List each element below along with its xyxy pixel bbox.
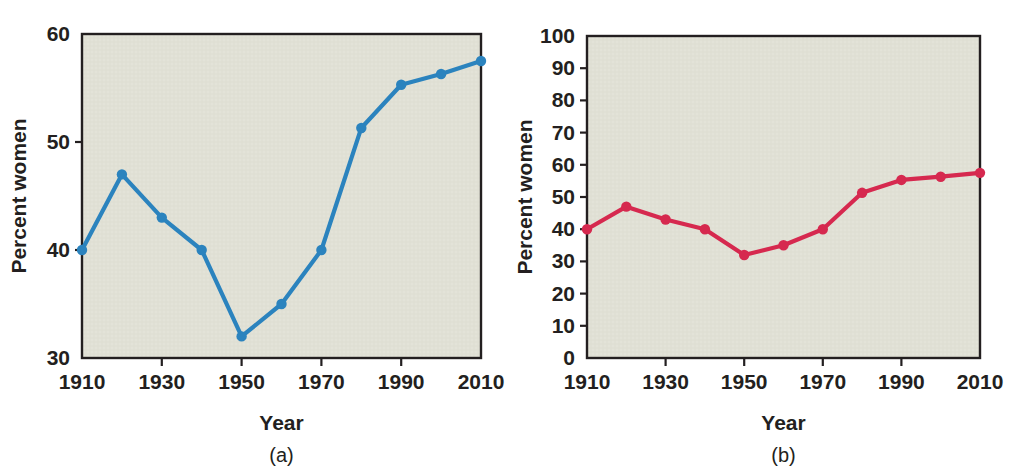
data-point	[197, 245, 207, 255]
x-tick-label: 1930	[138, 370, 185, 393]
data-point	[896, 175, 906, 185]
y-tick-label: 50	[47, 130, 70, 153]
x-tick-label: 2010	[957, 370, 1004, 393]
chart-a-svg: 30405060191019301950197019902010YearPerc…	[0, 0, 509, 471]
y-tick-label: 60	[552, 153, 575, 176]
chart-b-svg: 0102030405060708090100191019301950197019…	[510, 0, 1019, 471]
x-tick-label: 1970	[799, 370, 846, 393]
data-point	[975, 168, 985, 178]
data-point	[236, 331, 246, 341]
data-point	[476, 56, 486, 66]
y-axis-label: Percent women	[513, 119, 536, 274]
y-tick-label: 60	[47, 22, 70, 45]
x-axis: 191019301950197019902010	[59, 358, 505, 393]
data-point	[621, 201, 631, 211]
y-tick-label: 30	[552, 249, 575, 272]
x-tick-label: 1910	[59, 370, 106, 393]
y-tick-label: 30	[47, 346, 70, 369]
y-tick-label: 100	[540, 24, 575, 47]
data-point	[436, 69, 446, 79]
y-axis-label: Percent women	[7, 118, 30, 273]
y-tick-label: 40	[47, 238, 70, 261]
data-point	[660, 214, 670, 224]
y-tick-label: 90	[552, 56, 575, 79]
x-tick-label: 1910	[564, 370, 611, 393]
data-point	[778, 240, 788, 250]
data-point	[276, 299, 286, 309]
y-tick-label: 70	[552, 121, 575, 144]
data-point	[582, 224, 592, 234]
y-tick-label: 40	[552, 217, 575, 240]
data-point	[356, 123, 366, 133]
data-point	[739, 250, 749, 260]
data-point	[77, 245, 87, 255]
data-point	[818, 224, 828, 234]
y-tick-label: 80	[552, 88, 575, 111]
x-axis: 191019301950197019902010	[564, 358, 1004, 393]
y-tick-label: 0	[563, 346, 575, 369]
panel-caption: (a)	[269, 444, 293, 466]
x-tick-label: 1990	[878, 370, 925, 393]
x-tick-label: 1950	[218, 370, 265, 393]
x-tick-label: 1990	[378, 370, 425, 393]
y-axis: 30405060	[47, 22, 82, 369]
x-tick-label: 2010	[458, 370, 505, 393]
x-axis-label: Year	[259, 411, 303, 434]
x-tick-label: 1950	[721, 370, 768, 393]
data-point	[157, 212, 167, 222]
figure-two-panel-line-charts: 30405060191019301950197019902010YearPerc…	[0, 0, 1019, 471]
x-tick-label: 1970	[298, 370, 345, 393]
y-tick-label: 20	[552, 282, 575, 305]
data-point	[936, 172, 946, 182]
data-point	[700, 224, 710, 234]
chart-panel-b: 0102030405060708090100191019301950197019…	[510, 0, 1019, 471]
x-tick-label: 1930	[642, 370, 689, 393]
data-point	[396, 80, 406, 90]
data-point	[857, 188, 867, 198]
y-axis: 0102030405060708090100	[540, 24, 587, 369]
x-axis-label: Year	[761, 411, 805, 434]
data-point	[316, 245, 326, 255]
y-tick-label: 10	[552, 314, 575, 337]
panel-caption: (b)	[771, 444, 795, 466]
y-tick-label: 50	[552, 185, 575, 208]
chart-panel-a: 30405060191019301950197019902010YearPerc…	[0, 0, 509, 471]
data-point	[117, 169, 127, 179]
